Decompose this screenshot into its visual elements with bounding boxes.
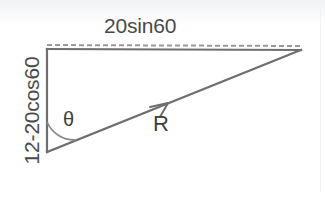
top-side-label: 20sin60 <box>104 15 176 36</box>
left-side-label: 12-20cos60 <box>21 46 42 176</box>
resultant-hypotenuse-line <box>47 50 301 152</box>
top-dashed-guide-line <box>47 45 301 46</box>
figure-canvas: 20sin60 12-20cos60 θ R <box>0 0 325 210</box>
top-side-line <box>47 49 301 50</box>
angle-theta-label: θ <box>63 109 74 129</box>
resultant-label: R <box>153 113 169 135</box>
